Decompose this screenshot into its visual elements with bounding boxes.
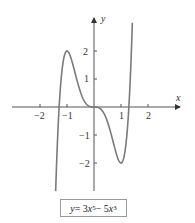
x-tick-label: 2 (146, 110, 151, 121)
equation-label: y = 3x5 − 5x3 (60, 199, 127, 217)
x-tick-label: −2 (34, 110, 45, 121)
y-tick-label: −1 (79, 130, 90, 141)
y-axis-label: y (100, 13, 106, 24)
x-tick-label: 1 (119, 110, 124, 121)
y-tick-label: −2 (79, 158, 90, 169)
x-axis-label: x (175, 92, 181, 103)
x-tick-label: −1 (62, 110, 73, 121)
y-tick-label: 2 (83, 46, 88, 57)
y-tick-label: 1 (84, 73, 89, 84)
function-graph: −2 −1 1 2 2 1 −1 −2 x y (0, 0, 195, 223)
